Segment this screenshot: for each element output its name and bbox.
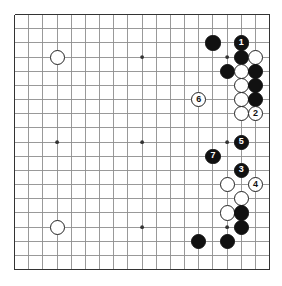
star-point [140,140,144,144]
black-stone [248,78,263,93]
white-stone [234,92,249,107]
white-stone [220,205,235,220]
white-stone [50,220,65,235]
white-stone [220,177,235,192]
star-point [140,55,144,59]
move-number-label: 4 [253,180,258,189]
black-stone [248,64,263,79]
white-stone [234,64,249,79]
black-stone [234,220,249,235]
move-number-label: 7 [210,151,215,160]
move-number-label: 2 [253,109,258,118]
black-stone [234,205,249,220]
black-stone [220,234,235,249]
move-number-label: 5 [239,137,244,146]
move-number-label: 6 [196,95,201,104]
white-stone [234,78,249,93]
star-point [55,140,59,144]
move-number-label: 1 [239,38,244,47]
white-stone [50,50,65,65]
black-stone [205,35,220,50]
star-point [225,225,229,229]
white-stone [248,50,263,65]
move-stone-5: 5 [234,135,249,150]
move-stone-3: 3 [234,163,249,178]
move-stone-1: 1 [234,35,249,50]
black-stone [234,50,249,65]
move-number-label: 3 [239,165,244,174]
black-stone [220,64,235,79]
move-stone-7: 7 [205,149,220,164]
go-diagram: 1265734 [0,0,282,286]
star-point [225,55,229,59]
star-point [225,140,229,144]
star-point [140,225,144,229]
